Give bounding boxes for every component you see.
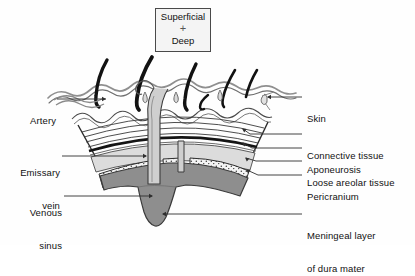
skin-surface	[48, 79, 296, 128]
label-venous-sinus-line-1: Venous	[6, 207, 62, 218]
label-emissary-vein-line-1: Emissary	[4, 167, 60, 178]
label-artery-line-1: Artery	[8, 115, 56, 126]
label-skin-line-1: Skin	[307, 113, 326, 124]
orientation-cross-marker: +	[156, 22, 210, 34]
label-venous-sinus-line-2: sinus	[6, 240, 62, 251]
label-meningeal-layer: Meningeal layer of dura mater	[307, 208, 376, 276]
orientation-superficial-label: Superficial	[156, 11, 210, 22]
orientation-box: Superficial + Deep	[155, 8, 211, 52]
label-artery: Artery	[8, 93, 56, 148]
orientation-deep-label: Deep	[156, 35, 210, 46]
label-venous-sinus: Venous sinus	[6, 185, 62, 273]
label-meningeal-layer-line-1: Meningeal layer	[307, 230, 376, 241]
meningeal-dura-layer	[100, 163, 248, 226]
label-pericranium-line-1: Pericranium	[307, 191, 359, 202]
label-meningeal-layer-line-2: of dura mater	[307, 263, 376, 274]
